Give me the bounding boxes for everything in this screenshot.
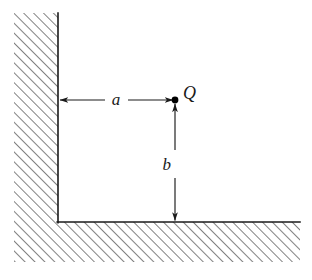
- horizontal-wall-hatching: [14, 222, 300, 262]
- dimension-a-label: a: [112, 90, 121, 109]
- horizontal-wall: [14, 222, 300, 262]
- dimension-a: a: [60, 90, 173, 109]
- charge-dot: [172, 97, 179, 104]
- charge-label: Q: [183, 83, 196, 103]
- vertical-wall: [14, 13, 58, 223]
- dimension-b-label: b: [163, 155, 172, 174]
- corner-charge-diagram: a b Q: [0, 0, 312, 280]
- dimension-b: b: [163, 104, 176, 221]
- vertical-wall-hatching: [14, 13, 58, 222]
- point-charge: Q: [172, 83, 196, 103]
- physics-figure: a b Q: [0, 0, 312, 280]
